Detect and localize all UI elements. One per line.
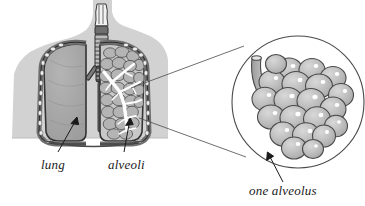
label-alveoli: alveoli [108,157,145,173]
label-lung: lung [41,157,65,173]
figure-canvas: lung alveoli one alveolus [0,0,365,206]
label-one-alveolus: one alveolus [249,183,317,199]
right-lung [99,42,150,144]
magnifier-circle [232,36,364,168]
left-lung [38,42,86,144]
respiratory-system-diagram [0,0,365,206]
